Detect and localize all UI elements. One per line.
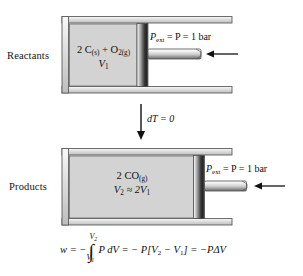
bottom-pressure-label: Pext = P = 1 bar bbox=[206, 163, 267, 174]
bottom-chamber-line2: V2 ≈ 2V1 bbox=[70, 184, 194, 198]
top-line1-mid: + O bbox=[99, 44, 118, 55]
top-lower-wall bbox=[62, 87, 232, 94]
thermodynamics-figure: Reactants bbox=[0, 0, 303, 276]
bottom-volume-subscript-2: 1 bbox=[147, 189, 151, 197]
top-volume-subscript: 1 bbox=[105, 63, 109, 71]
equation-mid3: ] = −PΔV bbox=[183, 244, 226, 255]
transition-arrow-head bbox=[137, 131, 145, 140]
top-pressure-subscript: ext bbox=[156, 36, 164, 43]
top-piston bbox=[137, 24, 148, 87]
top-force-arrow bbox=[206, 51, 238, 58]
top-upper-wall bbox=[62, 17, 232, 24]
bottom-volume-subscript: 2 bbox=[120, 189, 124, 197]
equation-mid2: − V bbox=[161, 244, 180, 255]
bottom-lower-wall bbox=[62, 219, 232, 226]
bottom-volume-relation: ≈ 2V bbox=[124, 184, 147, 195]
top-chamber-contents: 2 C(s) + O2(g) V1 bbox=[70, 44, 137, 71]
equation-mid: = − P[V bbox=[119, 244, 158, 255]
equation-lhs: w = − bbox=[60, 244, 86, 255]
bottom-piston bbox=[194, 156, 205, 219]
top-left-end-wall bbox=[62, 17, 69, 94]
bottom-line1-prefix: 2 CO bbox=[117, 170, 139, 181]
top-chamber-line2: V1 bbox=[70, 58, 137, 72]
integral-upper-sub: 2 bbox=[94, 236, 97, 242]
bottom-chamber-contents: 2 CO(g) V2 ≈ 2V1 bbox=[70, 170, 194, 197]
top-line1-sub2: 2(g) bbox=[118, 49, 130, 57]
bottom-pressure-subscript: ext bbox=[212, 168, 220, 175]
equation-mid-sub1: 2 bbox=[158, 249, 162, 257]
top-line1-prefix: 2 C bbox=[77, 44, 92, 55]
integral-lower-sub: 1 bbox=[91, 257, 94, 263]
top-pressure-rest: = P = 1 bar bbox=[164, 31, 211, 42]
definite-integral: V2∫V1 bbox=[86, 245, 98, 257]
bottom-pressure-rest: = P = 1 bar bbox=[220, 163, 267, 174]
top-piston-rod bbox=[148, 49, 201, 59]
bottom-piston-rod bbox=[205, 181, 247, 191]
top-line1-sub1: (s) bbox=[92, 49, 100, 57]
bottom-chamber-line1: 2 CO(g) bbox=[70, 170, 194, 184]
work-equation: w = −V2∫V1P dV = − P[V2 − V1] = −PΔV bbox=[60, 245, 226, 257]
top-volume-symbol: V bbox=[98, 58, 104, 69]
bottom-force-arrow bbox=[254, 183, 285, 190]
top-chamber-line1: 2 C(s) + O2(g) bbox=[70, 44, 137, 58]
isothermal-condition-label: dT = 0 bbox=[147, 113, 174, 124]
equation-integrand: P dV bbox=[98, 244, 118, 255]
bottom-left-end-wall bbox=[62, 149, 69, 226]
bottom-upper-wall bbox=[62, 149, 232, 156]
equation-mid-sub2: 1 bbox=[180, 249, 184, 257]
bottom-line1-sub1: (g) bbox=[139, 175, 147, 183]
integral-lower-limit: V1 bbox=[86, 254, 94, 262]
top-cylinder-assembly bbox=[0, 0, 303, 100]
top-pressure-label: Pext = P = 1 bar bbox=[150, 31, 211, 42]
